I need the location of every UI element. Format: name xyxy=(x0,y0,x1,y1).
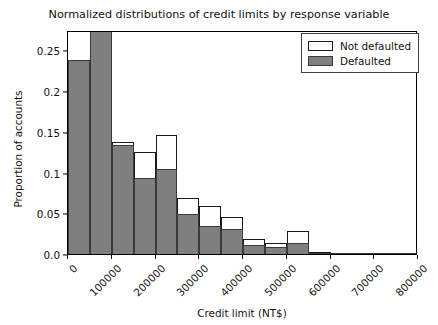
y-tick-label: 0.05 xyxy=(37,208,60,220)
bar-df-10 xyxy=(287,243,309,254)
x-tick-mark xyxy=(67,255,68,259)
bar-df-3 xyxy=(134,178,156,254)
chart-legend: Not defaultedDefaulted xyxy=(301,33,419,73)
y-tick-label: 0.25 xyxy=(37,45,60,57)
x-axis: Credit limit (NT$) 010000020000030000040… xyxy=(0,255,438,325)
bar-df-6 xyxy=(199,226,221,255)
legend-item-nd: Not defaulted xyxy=(308,38,411,53)
bar-df-11 xyxy=(309,253,331,254)
legend-item-label: Defaulted xyxy=(340,55,391,67)
bar-df-14 xyxy=(374,253,396,254)
bar-df-5 xyxy=(177,214,199,254)
x-tick-mark xyxy=(111,255,112,259)
y-tick-label: 0.15 xyxy=(37,127,60,139)
bar-df-13 xyxy=(352,253,374,254)
legend-item-label: Not defaulted xyxy=(340,40,411,52)
x-tick-mark xyxy=(417,255,418,259)
bar-df-15 xyxy=(396,253,417,254)
bar-df-9 xyxy=(265,247,287,254)
legend-item-df: Defaulted xyxy=(308,53,411,68)
x-tick-mark xyxy=(198,255,199,259)
bar-df-12 xyxy=(331,253,353,254)
y-axis-label: Proportion of accounts xyxy=(12,69,24,229)
bar-df-7 xyxy=(221,229,243,254)
x-tick-mark xyxy=(155,255,156,259)
y-tick-label: 0.2 xyxy=(43,86,60,98)
bar-df-8 xyxy=(243,245,265,254)
bar-df-4 xyxy=(156,169,178,254)
legend-swatch-icon xyxy=(308,56,333,66)
histogram-figure: Normalized distributions of credit limit… xyxy=(0,0,438,325)
bar-df-1 xyxy=(90,31,112,254)
x-tick-mark xyxy=(286,255,287,259)
x-tick-mark xyxy=(330,255,331,259)
y-tick-label: 0.1 xyxy=(43,168,60,180)
legend-swatch-icon xyxy=(308,41,333,51)
bar-df-2 xyxy=(112,145,134,254)
x-tick-mark xyxy=(242,255,243,259)
x-tick-mark xyxy=(373,255,374,259)
bar-df-0 xyxy=(68,60,90,254)
